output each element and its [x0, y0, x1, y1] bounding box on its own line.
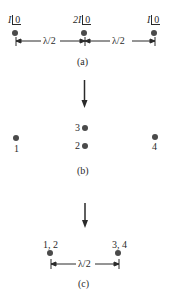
- source-2-label: 2I0: [73, 15, 91, 25]
- dimension-lines-a: [16, 37, 155, 46]
- caption-c: (c): [78, 279, 89, 289]
- spacing-label-right: λ/2: [112, 36, 125, 46]
- element-12-label: 1, 2: [43, 240, 58, 250]
- source-1-magnitude: I: [8, 14, 11, 25]
- element-1-dot: [13, 135, 19, 141]
- source-1-angle: 0: [12, 15, 21, 25]
- source-1-label: I0: [8, 15, 21, 25]
- element-12-dot: [47, 250, 53, 256]
- source-2-magnitude: 2I: [73, 14, 81, 25]
- caption-a: (a): [77, 57, 88, 67]
- element-4-dot: [152, 134, 158, 140]
- down-arrow-2: [82, 203, 88, 228]
- element-2-dot: [82, 143, 88, 149]
- source-3-dot: [151, 30, 157, 36]
- source-3-angle: 0: [151, 15, 160, 25]
- spacing-label-left: λ/2: [43, 36, 56, 46]
- source-2-dot: [81, 30, 87, 36]
- source-3-label: I0: [147, 15, 160, 25]
- element-3-label: 3: [75, 123, 80, 133]
- source-3-magnitude: I: [147, 14, 150, 25]
- diagram-lines: [0, 0, 172, 302]
- element-3-dot: [82, 125, 88, 131]
- source-2-angle: 0: [82, 15, 91, 25]
- element-34-label: 3, 4: [112, 240, 127, 250]
- element-2-label: 2: [75, 141, 80, 151]
- element-34-dot: [115, 250, 121, 256]
- down-arrow-1: [82, 80, 88, 108]
- source-1-dot: [12, 30, 18, 36]
- element-1-label: 1: [14, 144, 19, 154]
- caption-b: (b): [77, 166, 89, 176]
- spacing-label-c: λ/2: [78, 259, 91, 269]
- element-4-label: 4: [152, 142, 157, 152]
